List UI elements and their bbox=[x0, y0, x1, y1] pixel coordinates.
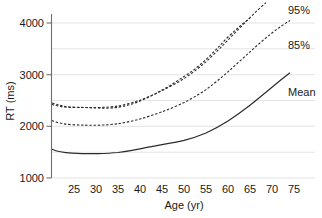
x-tick-label-50: 50 bbox=[178, 183, 190, 195]
series-label-95-percent: 95% bbox=[288, 4, 310, 16]
y-tick-label-4000: 4000 bbox=[20, 17, 44, 29]
x-tick-label-45: 45 bbox=[156, 183, 168, 195]
x-tick-label-35: 35 bbox=[112, 183, 124, 195]
x-tick-label-70: 70 bbox=[266, 183, 278, 195]
reaction-time-vs-age-chart: 4000 3000 2000 1000 RT (ms) 25 30 35 40 … bbox=[0, 0, 322, 218]
x-tick-label-55: 55 bbox=[200, 183, 212, 195]
y-axis-title: RT (ms) bbox=[4, 81, 16, 120]
x-tick-label-30: 30 bbox=[90, 183, 102, 195]
series-label-mean: Mean bbox=[288, 86, 316, 98]
y-tick-label-1000: 1000 bbox=[20, 172, 44, 184]
x-tick-label-25: 25 bbox=[68, 183, 80, 195]
y-tick-label-3000: 3000 bbox=[20, 69, 44, 81]
x-tick-label-60: 60 bbox=[222, 183, 234, 195]
x-axis-title: Age (yr) bbox=[164, 199, 203, 211]
y-tick-label-2000: 2000 bbox=[20, 120, 44, 132]
x-tick-label-75: 75 bbox=[288, 183, 300, 195]
x-tick-label-65: 65 bbox=[244, 183, 256, 195]
series-label-85-percent: 85% bbox=[288, 39, 310, 51]
chart-figure: 4000 3000 2000 1000 RT (ms) 25 30 35 40 … bbox=[0, 0, 322, 218]
x-tick-label-40: 40 bbox=[134, 183, 146, 195]
